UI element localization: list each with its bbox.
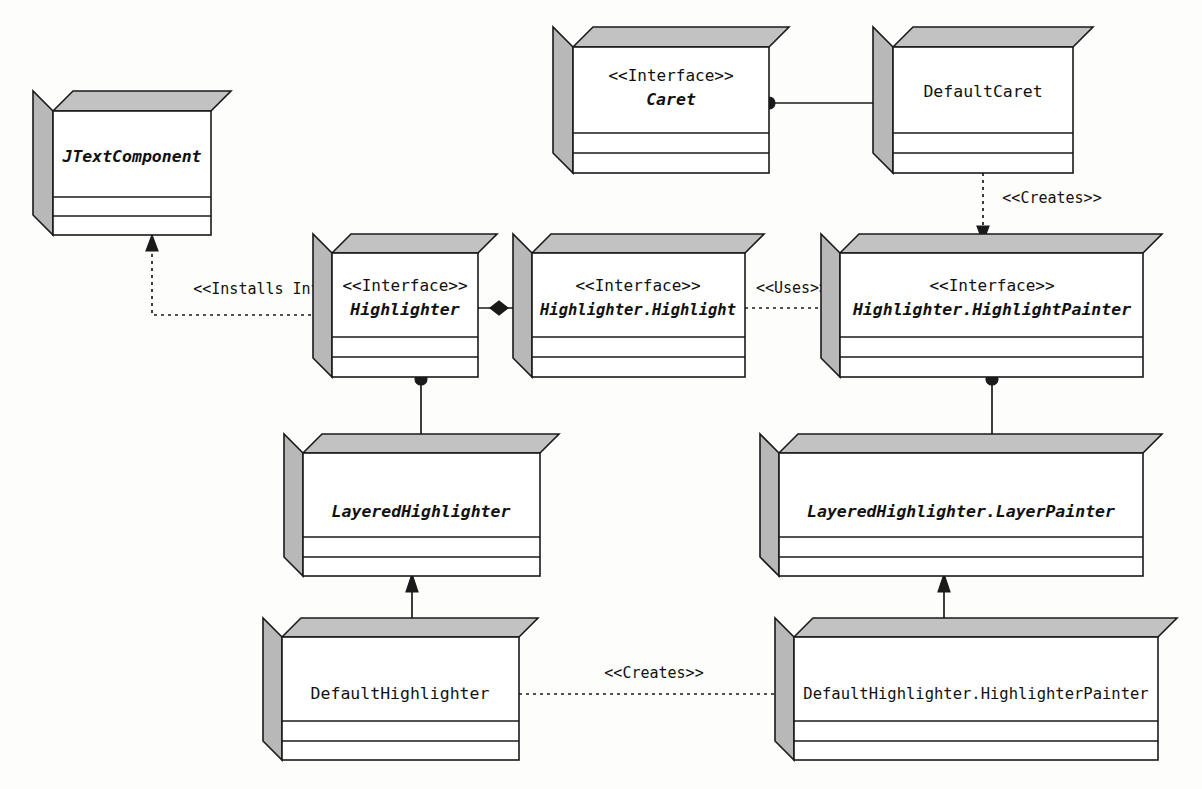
class-box-defaultcaret[interactable]: DefaultCaret [873,27,1093,173]
relationship-label-creates-highlighter: <<Creates>> [604,664,703,682]
class-name-defaulthighlighter-highlighterpainter: DefaultHighlighter.HighlighterPainter [803,685,1148,703]
class-stereotype-caret: <<Interface>> [608,66,733,85]
class-box-highlighter-highlightpainter[interactable]: <<Interface>> Highlighter.HighlightPaint… [821,234,1162,377]
class-box-defaulthighlighter-highlighterpainter[interactable]: DefaultHighlighter.HighlighterPainter [775,618,1177,760]
class-box-jtextcomponent[interactable]: JTextComponent [33,91,231,235]
uml-class-diagram: Highlighter.HighlightPainter --> <<Creat… [0,0,1202,789]
class-stereotype-highlighter-highlightpainter: <<Interface>> [929,276,1054,295]
class-stereotype-highlighter-highlight: <<Interface>> [575,276,700,295]
relationship-defaultcaret-creates: <<Creates>> [977,173,1102,242]
relationship-label-uses: <<Uses>> [756,279,828,297]
class-name-defaulthighlighter: DefaultHighlighter [311,684,490,703]
class-name-highlighter-highlight: Highlighter.Highlight [539,301,736,319]
class-box-highlighter-highlight[interactable]: <<Interface>> Highlighter.Highlight [513,234,764,377]
class-box-caret[interactable]: <<Interface>> Caret [553,27,789,173]
class-name-highlighter: Highlighter [349,300,459,319]
class-box-highlighter[interactable]: <<Interface>> Highlighter [313,234,497,377]
relationship-label-creates-caret: <<Creates>> [1002,189,1101,207]
class-stereotype-highlighter: <<Interface>> [342,276,467,295]
class-box-layeredhighlighter-layerpainter[interactable]: LayeredHighlighter.LayerPainter [760,434,1162,576]
class-name-highlighter-highlightpainter: Highlighter.HighlightPainter [852,300,1131,319]
relationship-defaulthighlighter-creates: <<Creates>> [519,664,794,701]
class-name-layeredhighlighter-layerpainter: LayeredHighlighter.LayerPainter [807,502,1115,521]
class-name-caret: Caret [646,90,696,109]
class-box-layeredhighlighter[interactable]: LayeredHighlighter [284,434,559,576]
class-name-layeredhighlighter: LayeredHighlighter [332,502,511,521]
class-box-defaulthighlighter[interactable]: DefaultHighlighter [263,618,538,760]
class-name-jtextcomponent: JTextComponent [61,147,201,166]
class-name-defaultcaret: DefaultCaret [923,82,1042,101]
uml-canvas: Highlighter.HighlightPainter --> <<Creat… [0,0,1202,789]
